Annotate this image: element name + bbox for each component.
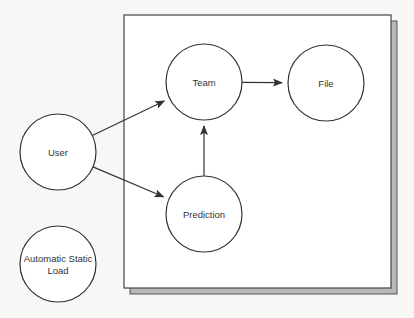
node-user: User [20, 114, 96, 190]
node-label-team: Team [192, 77, 215, 88]
node-file: File [288, 45, 364, 121]
node-label-prediction: Prediction [183, 209, 225, 220]
diagram-canvas: UserTeamFilePredictionAutomatic StaticLo… [0, 0, 414, 318]
node-automatic-static-load: Automatic StaticLoad [20, 226, 96, 302]
node-label-automatic-static-load: Automatic Static [24, 253, 93, 264]
node-prediction: Prediction [166, 176, 242, 252]
node-label-file: File [318, 78, 333, 89]
node-label-user: User [48, 147, 68, 158]
node-team: Team [166, 44, 242, 120]
node-label-automatic-static-load: Load [47, 265, 68, 276]
